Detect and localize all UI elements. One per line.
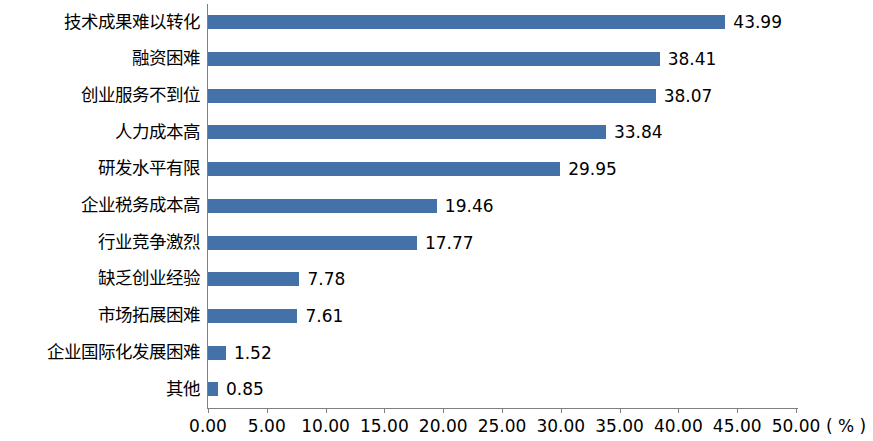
bar (208, 382, 218, 396)
bar-row: 企业税务成本高19.46 (0, 188, 873, 225)
x-axis-unit-label: ( % ) (826, 416, 866, 436)
bar (208, 272, 299, 286)
x-axis-tick-mark (208, 408, 209, 413)
x-axis-tick-mark (326, 408, 327, 413)
x-axis-tick-mark (443, 408, 444, 413)
bar-row: 融资困难38.41 (0, 41, 873, 78)
category-label: 企业国际化发展困难 (0, 344, 200, 362)
x-axis-tick-mark (678, 408, 679, 413)
bar-and-value: 38.41 (208, 41, 716, 78)
bar (208, 199, 437, 213)
x-axis-tick-label: 50.00 (772, 416, 821, 436)
x-axis-tick-mark (620, 408, 621, 413)
bar-and-value: 7.61 (208, 298, 343, 335)
bar (208, 15, 725, 29)
x-axis-tick-label: 25.00 (478, 416, 527, 436)
bar-row: 研发水平有限29.95 (0, 151, 873, 188)
bar-value-label: 0.85 (226, 379, 264, 399)
category-label: 缺乏创业经验 (0, 270, 200, 288)
bar (208, 162, 560, 176)
bar-and-value: 0.85 (208, 371, 264, 408)
bar-and-value: 17.77 (208, 224, 474, 261)
bar-and-value: 19.46 (208, 188, 494, 225)
bar-row: 企业国际化发展困难1.52 (0, 334, 873, 371)
bar-and-value: 43.99 (208, 4, 782, 41)
bar-row: 行业竞争激烈17.77 (0, 224, 873, 261)
bar-and-value: 29.95 (208, 151, 617, 188)
bar-row: 人力成本高33.84 (0, 114, 873, 151)
x-axis-tick-label: 10.00 (301, 416, 350, 436)
bar-row: 技术成果难以转化43.99 (0, 4, 873, 41)
bar-value-label: 29.95 (568, 159, 617, 179)
bar-value-label: 7.78 (307, 269, 345, 289)
category-label: 创业服务不到位 (0, 87, 200, 105)
x-axis-tick-mark (384, 408, 385, 413)
bar-value-label: 7.61 (305, 306, 343, 326)
bar-row: 其他0.85 (0, 371, 873, 408)
x-axis-tick-label: 15.00 (360, 416, 409, 436)
bar-row: 创业服务不到位38.07 (0, 77, 873, 114)
bar-value-label: 1.52 (234, 343, 272, 363)
x-axis-tick-mark (561, 408, 562, 413)
category-label: 行业竞争激烈 (0, 234, 200, 252)
bar-value-label: 43.99 (733, 12, 782, 32)
x-axis-tick-label: 40.00 (654, 416, 703, 436)
category-label: 其他 (0, 381, 200, 399)
bar-and-value: 38.07 (208, 77, 712, 114)
category-label: 研发水平有限 (0, 160, 200, 178)
bar-row: 市场拓展困难7.61 (0, 298, 873, 335)
bar-value-label: 38.07 (664, 86, 713, 106)
bar (208, 125, 606, 139)
x-axis-tick-label: 45.00 (713, 416, 762, 436)
horizontal-bar-chart: 技术成果难以转化43.99融资困难38.41创业服务不到位38.07人力成本高3… (0, 0, 873, 441)
x-axis-tick-mark (267, 408, 268, 413)
bar-value-label: 33.84 (614, 122, 663, 142)
x-axis-tick-label: 0.00 (189, 416, 227, 436)
bar (208, 346, 226, 360)
x-axis-tick-label: 20.00 (419, 416, 468, 436)
bar-value-label: 17.77 (425, 233, 474, 253)
bar-and-value: 1.52 (208, 334, 272, 371)
category-label: 融资困难 (0, 50, 200, 68)
bar-value-label: 19.46 (445, 196, 494, 216)
bar-and-value: 7.78 (208, 261, 345, 298)
bar-row: 缺乏创业经验7.78 (0, 261, 873, 298)
bar (208, 309, 297, 323)
category-label: 人力成本高 (0, 124, 200, 142)
x-axis-tick-mark (737, 408, 738, 413)
category-label: 技术成果难以转化 (0, 14, 200, 32)
x-axis-tick-mark (796, 408, 797, 413)
category-label: 企业税务成本高 (0, 197, 200, 215)
bar-value-label: 38.41 (668, 49, 717, 69)
category-label: 市场拓展困难 (0, 307, 200, 325)
bar (208, 52, 660, 66)
x-axis-tick-label: 30.00 (536, 416, 585, 436)
bar-and-value: 33.84 (208, 114, 663, 151)
x-axis-tick-label: 35.00 (595, 416, 644, 436)
bar (208, 236, 417, 250)
x-axis-tick-label: 5.00 (248, 416, 286, 436)
bar (208, 89, 656, 103)
x-axis-tick-mark (502, 408, 503, 413)
